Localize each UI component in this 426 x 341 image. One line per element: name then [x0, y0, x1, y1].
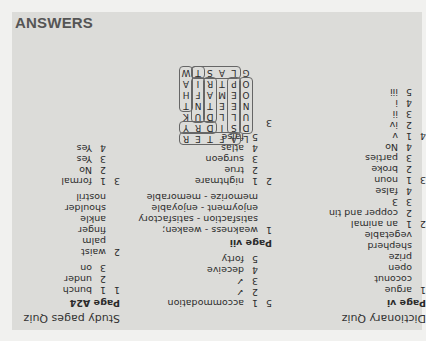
- list-item: 4No: [286, 142, 426, 153]
- section-number: 3: [412, 175, 426, 186]
- word-outline: [191, 66, 205, 79]
- list-item: 31formal: [0, 176, 120, 187]
- item-number: 4: [244, 265, 258, 276]
- item-number: 3: [92, 154, 106, 165]
- item-number: 4: [92, 143, 106, 154]
- answer-text: coconut: [374, 274, 412, 285]
- answer-text: bunch: [63, 285, 92, 296]
- answer-text: Yes: [77, 143, 92, 154]
- answer-text: formal: [61, 176, 92, 187]
- grid-letter: L: [240, 133, 252, 144]
- study-pages-quiz-title: Study pages Quiz: [0, 313, 120, 324]
- item-number: 2: [244, 165, 258, 176]
- item-number: 1: [92, 176, 106, 187]
- section-number: 1: [412, 285, 426, 296]
- list-item: 2waist: [0, 247, 120, 258]
- section-number: 3: [106, 176, 120, 187]
- answer-text: forty: [222, 254, 244, 265]
- answer-text: copper and tin: [329, 208, 398, 219]
- list-item: vegetable: [286, 230, 426, 241]
- item-number: 4: [398, 186, 412, 197]
- list-item: 2under: [0, 274, 120, 285]
- list-item: 51accommodation: [122, 298, 272, 309]
- answer-text: ankle: [80, 214, 106, 225]
- list-item: 2✓: [122, 287, 272, 298]
- list-item: shepherd: [286, 241, 426, 252]
- list-item: shoulder: [0, 203, 120, 214]
- answer-text: finger: [78, 225, 106, 236]
- word-outline: [239, 77, 253, 134]
- item-number: 1: [92, 285, 106, 296]
- section-number: 2: [106, 247, 120, 258]
- answer-text: enjoyment - enjoyable: [151, 203, 258, 214]
- item-number: 3: [244, 154, 258, 165]
- answer-text: memorize - memorable: [147, 192, 258, 203]
- list-item: 3parties: [286, 153, 426, 164]
- list-item: 5forty: [122, 254, 272, 265]
- answer-text: Yes: [77, 154, 92, 165]
- answer-text: iii: [390, 87, 398, 98]
- item-number: 3: [398, 109, 412, 120]
- answer-text: ii: [393, 109, 398, 120]
- item-number: 1: [244, 176, 258, 187]
- item-number: 3: [398, 197, 412, 208]
- answer-text: v: [392, 131, 398, 142]
- list-item: 3ii: [286, 109, 426, 120]
- answer-text: palm: [82, 236, 106, 247]
- answer-text: nostril: [76, 192, 106, 203]
- item-number: 3: [398, 153, 412, 164]
- check-icon: ✓: [236, 287, 244, 298]
- list-item: 5iii: [286, 87, 426, 98]
- list-item: 3on: [0, 263, 120, 274]
- list-item: palm: [0, 236, 120, 247]
- list-item: memorize - memorable: [122, 192, 272, 203]
- answer-text: argue: [385, 285, 412, 296]
- list-item: 2No: [0, 165, 120, 176]
- list-item: 2true: [122, 165, 272, 176]
- answer-text: broke: [371, 164, 398, 175]
- answer-text: surgeon: [206, 154, 244, 165]
- answer-text: on: [80, 263, 92, 274]
- list-item: coconut: [286, 274, 426, 285]
- study-pages-quiz-column: Study pages Quiz Page A24 11bunch 2under…: [0, 143, 120, 324]
- answer-text: i: [395, 98, 398, 109]
- list-item: 1argue: [286, 285, 426, 296]
- list-item: 4false: [286, 186, 426, 197]
- section-number: 4: [412, 131, 426, 142]
- answer-text: 3: [392, 197, 398, 208]
- answer-text: iv: [390, 120, 398, 131]
- item-number: 5: [244, 254, 258, 265]
- item-number: 2: [244, 287, 258, 298]
- answer-text: false: [375, 186, 398, 197]
- dictionary-quiz-column: Dictionary Quiz Page vi 1argue coconut o…: [286, 87, 426, 324]
- dictionary-quiz-column-2: . 51accommodation 2✓ 3✓ 4deceive 5forty …: [122, 118, 272, 324]
- answer-text: open: [388, 263, 412, 274]
- answer-text: shepherd: [368, 241, 412, 252]
- list-item: 3✓: [122, 276, 272, 287]
- answer-text: under: [64, 274, 92, 285]
- page-vi-heading: Page vi: [286, 298, 426, 309]
- list-item: 3surgeon: [122, 154, 272, 165]
- item-number: 1: [244, 298, 258, 309]
- answer-text: nightmare: [195, 176, 244, 187]
- section-number: 1: [106, 285, 120, 296]
- item-number: 4: [398, 98, 412, 109]
- answer-text: an animal: [351, 219, 398, 230]
- list-item: 31noun: [286, 175, 426, 186]
- page-vii-heading: Page vii: [122, 238, 272, 249]
- list-item: 21an animal: [286, 219, 426, 230]
- answer-text: true: [225, 165, 245, 176]
- list-item: enjoyment - enjoyable: [122, 203, 272, 214]
- section-number: 5: [258, 298, 272, 309]
- list-item: 4deceive: [122, 265, 272, 276]
- list-item: 1weakness - weaken;: [122, 225, 272, 236]
- rotated-answer-page: Dictionary Quiz Page vi 1argue coconut o…: [0, 26, 422, 330]
- item-number: 3: [92, 263, 106, 274]
- answer-text: prize: [389, 252, 412, 263]
- item-number: 2: [398, 120, 412, 131]
- answer-text: parties: [365, 153, 398, 164]
- section-number: 2: [258, 176, 272, 187]
- check-icon: ✓: [236, 276, 244, 287]
- list-item: finger: [0, 225, 120, 236]
- list-item: 41v: [286, 131, 426, 142]
